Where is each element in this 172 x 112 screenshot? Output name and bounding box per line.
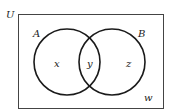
universe-label: U bbox=[6, 9, 15, 20]
intersection-label: y bbox=[86, 58, 93, 69]
set-a-label: A bbox=[32, 28, 40, 39]
venn-diagram: U A B x y z w bbox=[0, 0, 172, 112]
region-x-label: x bbox=[54, 58, 60, 69]
set-b-label: B bbox=[137, 28, 145, 39]
region-z-label: z bbox=[125, 58, 132, 69]
outside-label: w bbox=[144, 92, 153, 103]
